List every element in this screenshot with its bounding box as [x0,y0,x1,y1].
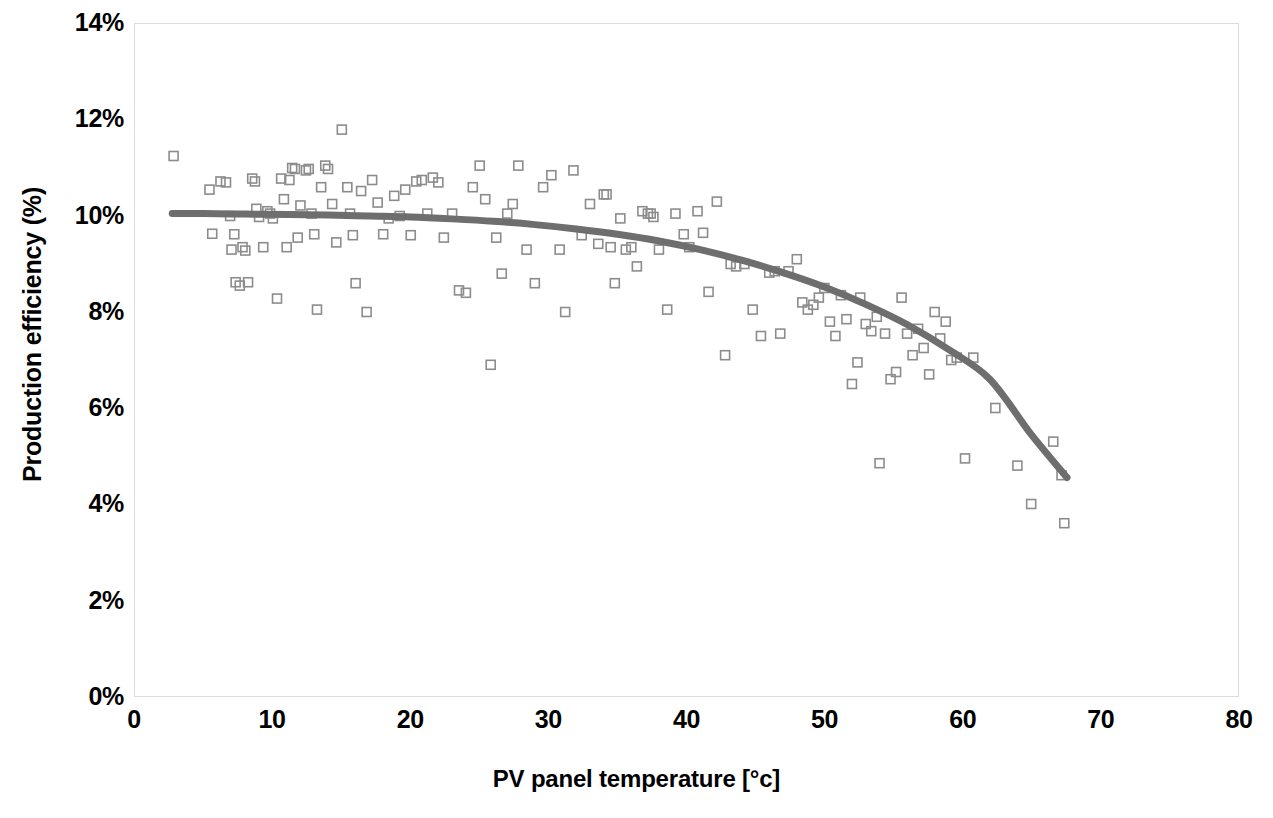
chart-container: Production efficiency (%) PV panel tempe… [0,0,1273,818]
scatter-point [248,174,257,183]
scatter-point [169,152,178,161]
scatter-point [373,198,382,207]
scatter-point [1060,519,1069,528]
scatter-point [241,246,250,255]
scatter-point [230,230,239,239]
scatter-point [594,239,603,248]
scatter-point [310,230,319,239]
scatter-point [205,185,214,194]
y-tick-label: 2% [14,588,124,613]
trendline-path [172,214,1067,478]
x-axis-title: PV panel temperature [°c] [0,765,1273,793]
scatter-point [439,233,448,242]
scatter-point [348,231,357,240]
scatter-point [208,229,217,238]
x-tick-label: 40 [647,707,727,732]
scatter-point [497,269,506,278]
scatter-point [351,279,360,288]
scatter-point [406,231,415,240]
scatter-point [649,212,658,221]
scatter-point [679,230,688,239]
scatter-point [390,191,399,200]
scatter-point [401,185,410,194]
scatter-point [1027,500,1036,509]
scatter-point [492,233,501,242]
scatter-point [897,293,906,302]
x-tick-label: 30 [508,707,588,732]
scatter-point [475,161,484,170]
scatter-point [321,161,330,170]
scatter-point [908,351,917,360]
scatter-point [312,305,321,314]
scatter-point [343,183,352,192]
scatter-point [238,243,247,252]
scatter-point [555,245,564,254]
scatter-point [357,187,366,196]
scatter-point [296,201,305,210]
scatter-point [585,200,594,209]
scatter-point [825,317,834,326]
scatter-point [508,200,517,209]
y-tick-label: 10% [14,203,124,228]
scatter-point [530,279,539,288]
scatter-point [561,308,570,317]
scatter-point [1013,461,1022,470]
scatter-point [522,245,531,254]
scatter-point [699,228,708,237]
scatter-point [991,404,1000,413]
scatter-point [250,177,259,186]
plot-area [134,23,1239,697]
scatter-point [627,243,636,252]
scatter-point [468,183,477,192]
scatter-point [756,332,765,341]
y-axis-title: Production efficiency (%) [18,125,47,545]
x-tick-label: 10 [232,707,312,732]
scatter-point [881,329,890,338]
trendline-layer [172,214,1067,478]
scatter-point [903,329,912,338]
scatter-points-layer [169,125,1069,528]
x-tick-label: 70 [1061,707,1141,732]
scatter-point [930,308,939,317]
scatter-point [693,207,702,216]
scatter-point [514,161,523,170]
scatter-point [324,164,333,173]
scatter-point [721,351,730,360]
scatter-point [941,317,950,326]
scatter-point [332,238,341,247]
scatter-point [712,197,721,206]
y-tick-label: 12% [14,106,124,131]
scatter-point [632,262,641,271]
scatter-point [748,305,757,314]
scatter-point [282,243,291,252]
scatter-point [621,245,630,254]
x-tick-label: 60 [923,707,1003,732]
x-tick-label: 20 [370,707,450,732]
scatter-point [776,329,785,338]
scatter-point [328,200,337,209]
scatter-point [847,380,856,389]
scatter-point [875,459,884,468]
scatter-point [925,370,934,379]
scatter-point [704,287,713,296]
scatter-point [671,209,680,218]
y-tick-label: 4% [14,491,124,516]
scatter-point [293,233,302,242]
scatter-point [539,183,548,192]
scatter-point [853,358,862,367]
scatter-point [279,195,288,204]
scatter-point [547,171,556,180]
scatter-point [961,454,970,463]
x-tick-label: 50 [785,707,865,732]
scatter-point [481,195,490,204]
scatter-point [569,166,578,175]
scatter-point [842,315,851,324]
scatter-point [616,214,625,223]
scatter-point [919,344,928,353]
plot-svg [135,24,1238,696]
scatter-point [273,294,282,303]
y-tick-label: 14% [14,10,124,35]
scatter-point [227,245,236,254]
scatter-point [259,243,268,252]
scatter-point [1049,437,1058,446]
